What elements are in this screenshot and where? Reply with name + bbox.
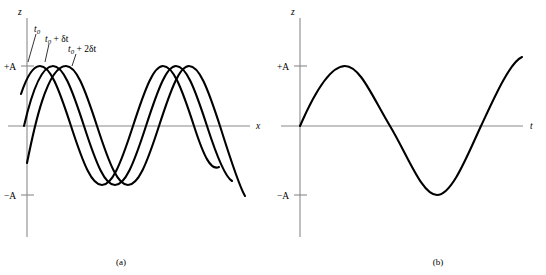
panel-a-label-t0: t0 <box>34 24 41 35</box>
panel-a: +A −A z x t0 t0 + δt t0 + 2δt (a) <box>4 7 261 267</box>
panel-a-leader-t0-plus-dt <box>45 44 49 62</box>
panel-a-label-t0-plus-dt: t0 + δt <box>45 34 69 45</box>
panel-a-z-axis-label: z <box>17 7 22 17</box>
wave-figure: +A −A z x t0 t0 + δt t0 + 2δt (a) <box>0 0 546 275</box>
panel-a-x-axis-label: x <box>255 121 261 131</box>
panel-a-plus-a-label: +A <box>4 62 16 72</box>
panel-b-z-axis-label: z <box>290 7 295 17</box>
panel-a-leader-t0-plus-2dt <box>72 54 76 66</box>
panel-b-minus-a-label: −A <box>277 191 289 201</box>
panel-a-label-t0-plus-2dt: t0 + 2δt <box>68 44 96 55</box>
panel-a-wave-t0-plus-2dt <box>27 66 245 196</box>
panel-b-t-axis-label: t <box>530 121 533 131</box>
panel-a-caption: (a) <box>116 257 126 267</box>
panel-b-caption: (b) <box>433 257 444 267</box>
panel-b-plus-a-label: +A <box>277 62 289 72</box>
panel-a-leader-t0 <box>28 34 36 62</box>
panel-a-minus-a-label: −A <box>4 191 16 201</box>
panel-b: +A −A z t (b) <box>277 7 533 267</box>
